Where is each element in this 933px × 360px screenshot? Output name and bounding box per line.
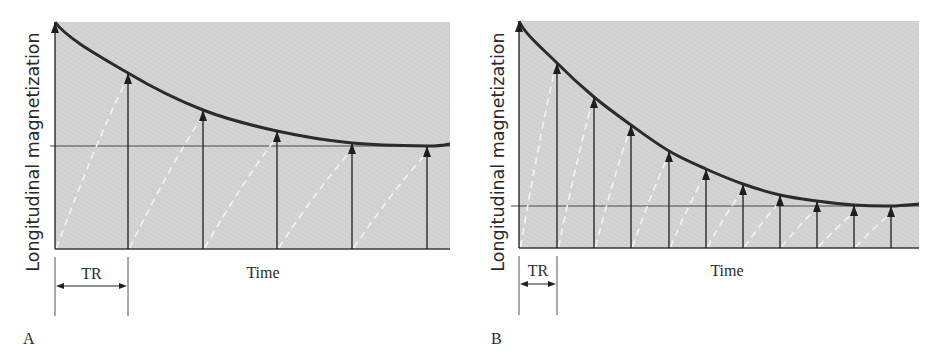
x-axis-label: Time xyxy=(710,262,743,279)
arrow-left-icon xyxy=(56,283,64,289)
plot-area xyxy=(55,22,450,249)
panel-b: TRTimeLongitudinal magnetizationB xyxy=(488,21,919,347)
arrow-left-icon xyxy=(520,281,528,287)
arrow-right-icon xyxy=(548,281,556,287)
plot-area xyxy=(519,21,919,248)
y-axis-label: Longitudinal magnetization xyxy=(23,32,43,271)
panel-label: B xyxy=(491,330,502,347)
x-axis-label: Time xyxy=(246,264,279,281)
arrow-right-icon xyxy=(119,283,127,289)
tr-label: TR xyxy=(528,262,549,279)
panel-label: A xyxy=(23,330,35,347)
y-axis-label: Longitudinal magnetization xyxy=(488,32,508,271)
panel-a: TRTimeLongitudinal magnetizationA xyxy=(23,22,450,347)
figure: TRTimeLongitudinal magnetizationA TRTime… xyxy=(0,0,933,360)
tr-label: TR xyxy=(81,265,102,282)
